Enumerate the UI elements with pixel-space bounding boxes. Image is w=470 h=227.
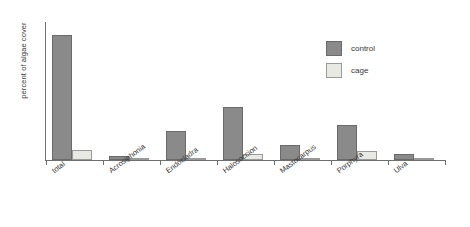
x-axis-tick [388,160,389,165]
y-axis-label: percent of algae cover [19,1,28,121]
bar-control [52,35,72,160]
bar-cage [72,150,92,160]
bar-group [52,22,92,160]
legend-swatch-cage [326,63,342,78]
chart-legend: controlcage [326,40,375,84]
bar-group [109,22,149,160]
x-axis-tick [46,160,47,165]
x-axis-tick [331,160,332,165]
x-axis-tick [274,160,275,165]
bar-chart-figure: percent of algae cover totalAcrosiphonia… [0,0,470,227]
x-axis-tick [217,160,218,165]
x-axis-tick [445,160,446,165]
x-axis-tick [160,160,161,165]
bar-group [394,22,434,160]
legend-item-cage: cage [326,62,375,79]
legend-item-control: control [326,40,375,57]
plot-area [46,22,445,160]
legend-label-control: control [351,44,375,53]
bar-group [166,22,206,160]
legend-label-cage: cage [351,66,368,75]
x-axis-label-ulva: Ulva [392,159,409,175]
x-axis-label-total: total [50,159,67,175]
bar-group [280,22,320,160]
bar-group [223,22,263,160]
bar-cage [414,158,434,160]
x-axis-tick [103,160,104,165]
legend-swatch-control [326,41,342,56]
